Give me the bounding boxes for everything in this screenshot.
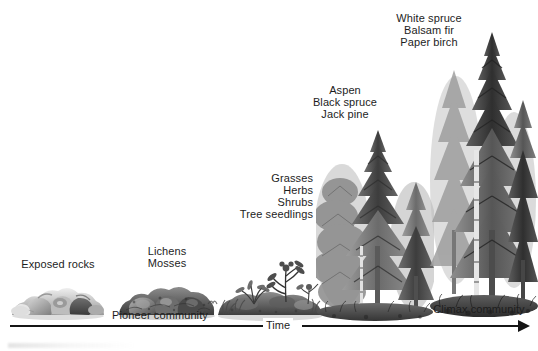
climax-community-label: Climax community (424, 303, 534, 315)
cropped-caption-artifact (8, 343, 158, 348)
succession-diagram: Exposed rocks (0, 0, 538, 351)
stage-3-label-line-3: Shrubs (213, 196, 313, 208)
stage-3-label-line-1: Grasses (213, 172, 313, 184)
stage-5-illustration (428, 30, 538, 322)
stage-5-label-line-1: White spruce (383, 12, 475, 24)
time-arrowhead-icon (518, 320, 530, 332)
stage-4-label-line-2: Black spruce (300, 96, 390, 108)
stage-1-illustration (8, 274, 108, 320)
stage-3-label-line-2: Herbs (213, 184, 313, 196)
stage-5-label-line-3: Paper birch (383, 36, 475, 48)
stage-5-label-line-2: Balsam fir (383, 24, 475, 36)
time-axis-line-left (10, 325, 263, 327)
stage-3-illustration (216, 242, 324, 322)
time-axis-line-right (302, 325, 526, 327)
stage-2-label-line-1: Lichens (118, 245, 216, 257)
stage-2-label-line-2: Mosses (118, 257, 216, 269)
stage-4-illustration (316, 126, 434, 322)
stage-4-label-line-1: Aspen (300, 84, 390, 96)
time-axis: Time (10, 320, 530, 334)
stage-3-label-line-4: Tree seedlings (203, 208, 313, 220)
time-axis-label: Time (263, 318, 293, 332)
stage-1-label: Exposed rocks (10, 258, 106, 270)
stage-4-label-line-3: Jack pine (300, 108, 390, 120)
